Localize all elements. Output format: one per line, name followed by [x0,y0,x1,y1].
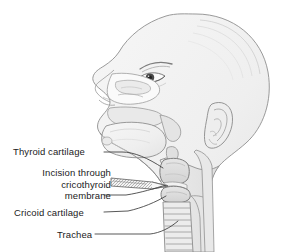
label-thyroid-cartilage: Thyroid cartilage [13,146,85,158]
label-incision-line-1: Incision through [3,167,111,179]
leader-cricoid-cartilage [104,196,166,212]
figure-caption [6,243,156,252]
label-trachea: Trachea [57,229,92,241]
label-incision-line-3: membrane [3,190,111,202]
label-cricoid-cartilage: Cricoid cartilage [14,207,84,219]
label-incision-line-2: cricothyroid [3,179,111,191]
anatomy-figure: Thyroid cartilage Incision through crico… [0,0,305,252]
cricoid-cartilage [161,186,190,203]
label-incision-through-cricothyroid-membrane: Incision through cricothyroid membrane [3,167,111,202]
trachea [163,202,193,252]
thyroid-cartilage [160,158,189,184]
